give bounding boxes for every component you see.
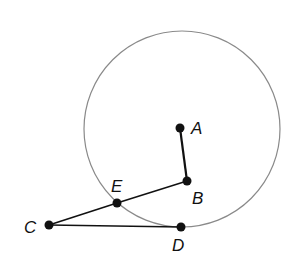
point-d bbox=[177, 223, 186, 232]
point-e bbox=[113, 199, 122, 208]
label-e: E bbox=[111, 177, 123, 196]
point-a bbox=[176, 124, 185, 133]
label-b: B bbox=[192, 189, 203, 208]
label-a: A bbox=[190, 119, 202, 138]
geometry-diagram: A B E C D bbox=[0, 0, 306, 268]
point-b bbox=[183, 177, 192, 186]
segment-be bbox=[117, 181, 187, 203]
label-c: C bbox=[24, 218, 37, 237]
segment-ec bbox=[49, 203, 117, 225]
label-d: D bbox=[172, 236, 184, 255]
segment-ab bbox=[180, 128, 187, 181]
point-c bbox=[45, 221, 54, 230]
